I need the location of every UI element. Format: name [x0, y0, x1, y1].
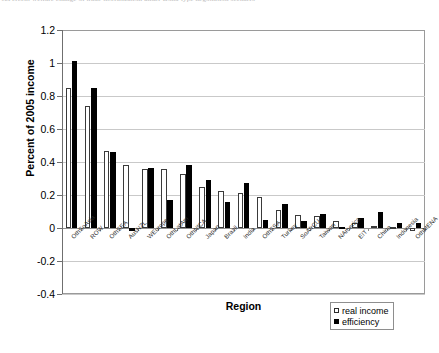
- legend-item-real-income: real income: [334, 305, 389, 316]
- legend-swatch-real-income: [334, 308, 339, 313]
- x-axis-label-ROW: ROW: [89, 224, 105, 240]
- x-axis-label-Taiwan: Taiwan: [318, 221, 337, 240]
- x-axis-label-OthSEA: OthSEA: [108, 219, 129, 240]
- x-axis-label-AusNZL: AusNZL: [127, 219, 148, 240]
- chart-legend: real income efficiency: [330, 302, 394, 330]
- x-axis-label-Brazil: Brazil: [222, 224, 238, 240]
- x-axis-label-SoAfrCU: SoAfrCU: [299, 217, 322, 240]
- x-axis-label-Turkey: Turkey: [280, 221, 299, 240]
- legend-item-efficiency: efficiency: [334, 316, 389, 327]
- x-axis-label-EIT: EIT: [356, 228, 368, 240]
- legend-label-real-income: real income: [342, 306, 389, 316]
- legend-swatch-efficiency: [334, 319, 339, 324]
- x-axis-label-China: China: [375, 223, 392, 240]
- x-axis-label-OthSSA: OthSSA: [261, 219, 282, 240]
- x-axis-label-Japan: Japan: [203, 223, 220, 240]
- legend-label-efficiency: efficiency: [342, 317, 379, 327]
- x-axis-label-India: India: [241, 225, 256, 240]
